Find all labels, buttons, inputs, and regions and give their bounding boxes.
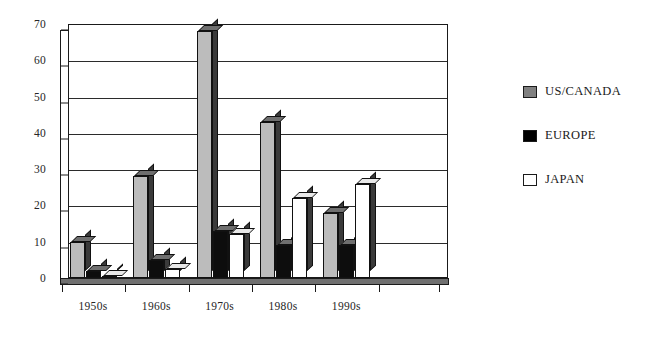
bar-chart-figure: 010203040506070 1950s1960s1970s1980s1990… (0, 0, 665, 337)
bar-1990s-europe (339, 245, 354, 278)
y-axis-tick-label: 70 (34, 18, 46, 30)
legend-item-label: EUROPE (545, 128, 596, 143)
bar-top-face (356, 178, 381, 184)
bar-1980s-us-canada (260, 122, 275, 278)
bars-layer (68, 24, 448, 278)
y-axis-tick-label: 0 (40, 272, 46, 284)
bar-side-face (370, 171, 376, 271)
bar-1970s-japan (229, 234, 244, 278)
y-axis-tick-mark (61, 138, 68, 139)
bar-1970s-us-canada (197, 31, 212, 278)
legend-item-japan[interactable]: JAPAN (523, 172, 658, 187)
bar-1960s-us-canada (133, 176, 148, 278)
bar-top-face (71, 236, 96, 242)
x-axis-tick-mark (315, 285, 316, 292)
bar-1970s-europe (213, 231, 228, 278)
y-axis-tick-label: 30 (34, 163, 46, 175)
y-axis-tick-mark (61, 102, 68, 103)
x-axis-tick-mark (252, 285, 253, 292)
bar-top-face (261, 116, 286, 122)
y-axis-tick-mark (61, 30, 68, 31)
bar-top-face (134, 170, 159, 176)
x-axis-tick-label-1960s: 1960s (142, 300, 171, 312)
x-axis-tick-label-1970s: 1970s (205, 300, 234, 312)
white-swatch-icon (523, 174, 537, 186)
bar-top-face (166, 263, 191, 269)
bar-1950s-europe (86, 271, 101, 278)
y-axis-tick-mark (61, 247, 68, 248)
y-axis-tick-label: 10 (34, 236, 46, 248)
y-axis-tick-mark (61, 211, 68, 212)
bar-1980s-japan (292, 198, 307, 278)
bar-1960s-europe (149, 260, 164, 278)
black-swatch-icon (523, 130, 537, 142)
y-axis-tick-mark (61, 175, 68, 176)
bar-1950s-us-canada (70, 242, 85, 278)
bar-top-face (103, 270, 128, 276)
bar-1950s-japan (102, 276, 117, 278)
x-axis-tick-label-1980s: 1980s (269, 300, 298, 312)
x-axis-tick-mark (62, 285, 63, 292)
y-axis-tick-label: 60 (34, 54, 46, 66)
x-axis-tick-mark (379, 285, 380, 292)
bar-top-face (198, 25, 223, 31)
bar-1980s-europe (276, 245, 291, 278)
legend-item-label: JAPAN (545, 172, 585, 187)
x-axis-tick-mark (125, 285, 126, 292)
gray-swatch-icon (523, 86, 537, 98)
y-axis-tick-mark (61, 66, 68, 67)
x-axis-tick-label-1950s: 1950s (79, 300, 108, 312)
bar-top-face (150, 254, 175, 260)
bar-top-face (324, 207, 349, 213)
bar-1990s-japan (355, 184, 370, 278)
chart-legend: US/CANADAEUROPEJAPAN (523, 84, 658, 216)
bar-top-face (230, 228, 255, 234)
y-axis: 010203040506070 (0, 0, 68, 337)
legend-item-label: US/CANADA (545, 84, 621, 99)
y-axis-tick-label: 50 (34, 91, 46, 103)
bar-top-face (293, 192, 318, 198)
y-axis-tick-label: 20 (34, 199, 46, 211)
bar-1990s-us-canada (323, 213, 338, 278)
legend-item-us-canada[interactable]: US/CANADA (523, 84, 658, 99)
y-axis-tick-label: 40 (34, 127, 46, 139)
x-axis-tick-mark (189, 285, 190, 292)
bar-side-face (307, 186, 313, 271)
plot-floor (60, 278, 449, 285)
bar-1960s-japan (165, 269, 180, 278)
x-axis-tick-label-1990s: 1990s (332, 300, 361, 312)
x-axis-tick-mark (439, 285, 440, 292)
legend-item-europe[interactable]: EUROPE (523, 128, 658, 143)
